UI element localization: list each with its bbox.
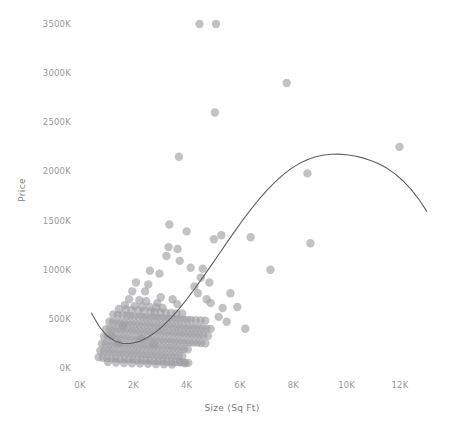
data-point bbox=[186, 264, 194, 272]
scatter-chart: 0K500K1000K1500K2000K2500K3000K3500K 0K2… bbox=[0, 0, 454, 437]
data-point bbox=[303, 169, 311, 177]
data-point bbox=[211, 108, 219, 116]
data-point bbox=[226, 289, 234, 297]
data-point bbox=[104, 358, 112, 366]
data-point bbox=[195, 20, 203, 28]
data-point bbox=[175, 152, 183, 160]
x-tick-label: 8K bbox=[268, 380, 318, 390]
data-point bbox=[198, 265, 206, 273]
y-tick-label: 0K bbox=[0, 363, 71, 373]
data-point bbox=[165, 220, 173, 228]
x-tick-label: 2K bbox=[108, 380, 158, 390]
data-point bbox=[120, 359, 128, 367]
data-points-layer bbox=[94, 20, 403, 369]
y-tick-label: 2000K bbox=[0, 166, 71, 176]
data-point bbox=[217, 231, 225, 239]
data-point bbox=[132, 278, 140, 286]
data-point bbox=[204, 332, 212, 340]
data-point bbox=[119, 322, 127, 330]
data-point bbox=[128, 359, 136, 367]
data-point bbox=[181, 359, 189, 367]
data-point bbox=[218, 304, 226, 312]
data-point bbox=[155, 269, 163, 277]
data-point bbox=[136, 359, 144, 367]
data-point bbox=[184, 345, 192, 353]
data-point bbox=[164, 243, 172, 251]
data-point bbox=[182, 227, 190, 235]
data-point bbox=[266, 266, 274, 274]
data-point bbox=[241, 324, 249, 332]
data-point bbox=[205, 278, 213, 286]
y-tick-label: 1500K bbox=[0, 216, 71, 226]
x-tick-label: 6K bbox=[215, 380, 265, 390]
data-point bbox=[162, 252, 170, 260]
data-point bbox=[212, 20, 220, 28]
y-tick-label: 500K bbox=[0, 314, 71, 324]
x-tick-label: 12K bbox=[375, 380, 425, 390]
data-point bbox=[395, 143, 403, 151]
data-point bbox=[214, 313, 222, 321]
x-tick-label: 0K bbox=[55, 380, 105, 390]
data-point bbox=[152, 360, 160, 368]
y-tick-label: 3500K bbox=[0, 19, 71, 29]
y-tick-label: 2500K bbox=[0, 117, 71, 127]
data-point bbox=[168, 360, 176, 368]
data-point bbox=[176, 257, 184, 265]
data-point bbox=[222, 318, 230, 326]
data-point bbox=[201, 339, 209, 347]
data-point bbox=[160, 360, 168, 368]
y-tick-label: 1000K bbox=[0, 265, 71, 275]
data-point bbox=[141, 287, 149, 295]
data-point bbox=[282, 79, 290, 87]
data-point bbox=[246, 233, 254, 241]
data-point bbox=[233, 303, 241, 311]
x-tick-label: 4K bbox=[162, 380, 212, 390]
data-point bbox=[112, 358, 120, 366]
data-point bbox=[201, 316, 209, 324]
x-tick-label: 10K bbox=[322, 380, 372, 390]
data-point bbox=[149, 340, 157, 348]
y-tick-label: 3000K bbox=[0, 68, 71, 78]
data-point bbox=[202, 295, 210, 303]
x-axis-title: Size (Sq Ft) bbox=[147, 403, 317, 413]
data-point bbox=[194, 289, 202, 297]
data-point bbox=[306, 239, 314, 247]
data-point bbox=[146, 267, 154, 275]
y-axis-title: Price bbox=[17, 167, 27, 213]
data-point bbox=[210, 235, 218, 243]
data-point bbox=[128, 287, 136, 295]
data-point bbox=[173, 245, 181, 253]
data-point bbox=[144, 360, 152, 368]
